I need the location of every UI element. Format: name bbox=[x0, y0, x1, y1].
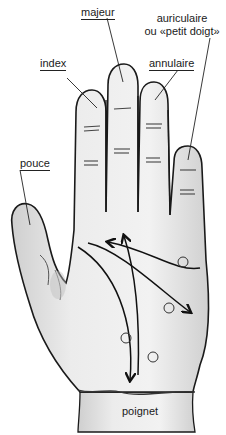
hand-outline bbox=[12, 64, 209, 392]
label-majeur: majeur bbox=[81, 6, 115, 20]
label-auriculaire-line2: ou «petit doigt» bbox=[139, 25, 225, 37]
label-pouce: pouce bbox=[20, 157, 50, 171]
label-auriculaire-line1: auriculaire bbox=[139, 12, 225, 24]
label-annulaire: annulaire bbox=[149, 57, 194, 71]
label-poignet: poignet bbox=[122, 405, 158, 417]
label-index: index bbox=[40, 57, 66, 71]
label-auriculaire: auriculaire ou «petit doigt» bbox=[139, 12, 225, 37]
